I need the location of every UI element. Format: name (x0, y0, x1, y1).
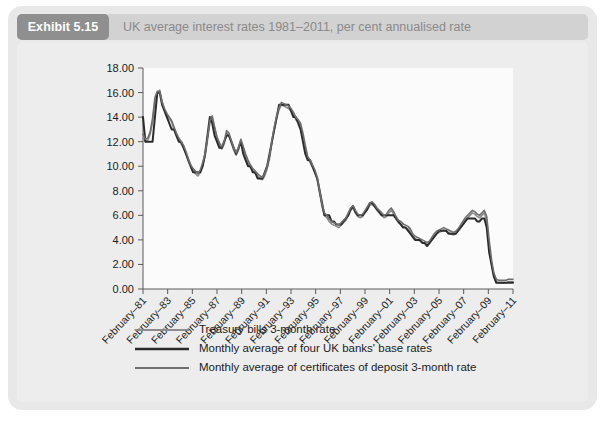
y-axis: 0.002.004.006.008.0010.0012.0014.0016.00… (106, 62, 143, 295)
chart-container: 0.002.004.006.008.0010.0012.0014.0016.00… (17, 42, 588, 402)
exhibit-card: Exhibit 5.15 UK average interest rates 1… (8, 6, 597, 410)
y-tick-label: 4.00 (113, 234, 134, 246)
exhibit-title: UK average interest rates 1981–2011, per… (123, 20, 471, 34)
y-tick-label: 2.00 (113, 258, 134, 270)
interest-rates-line-chart: 0.002.004.006.008.0010.0012.0014.0016.00… (17, 42, 588, 402)
exhibit-header-bar: Exhibit 5.15 UK average interest rates 1… (17, 14, 588, 40)
y-tick-label: 14.00 (106, 111, 134, 123)
y-tick-label: 8.00 (113, 185, 134, 197)
y-tick-label: 16.00 (106, 87, 134, 99)
plot-background (143, 68, 513, 289)
legend-label-0: Treasury bills 3-month rate (199, 323, 335, 335)
y-tick-label: 18.00 (106, 62, 134, 74)
legend-label-1: Monthly average of four UK banks' base r… (199, 342, 432, 354)
y-tick-label: 0.00 (113, 283, 134, 295)
y-tick-label: 6.00 (113, 209, 134, 221)
y-tick-label: 12.00 (106, 136, 134, 148)
exhibit-badge: Exhibit 5.15 (17, 14, 109, 40)
y-tick-label: 10.00 (106, 160, 134, 172)
x-axis: February–81February–83February–85Februar… (99, 289, 518, 346)
legend-label-2: Monthly average of certificates of depos… (199, 361, 476, 373)
